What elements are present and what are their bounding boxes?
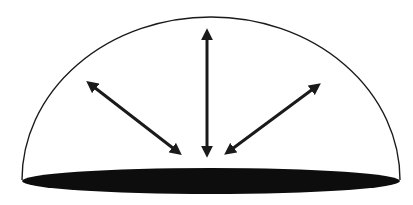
diagram-canvas	[0, 0, 413, 205]
arrow-left-icon	[90, 84, 178, 152]
hemisphere-diagram	[0, 0, 413, 205]
arrow-right-icon	[228, 86, 317, 152]
base-ellipse	[22, 168, 400, 194]
arrows-group	[90, 33, 317, 153]
dome-outline	[22, 17, 400, 180]
